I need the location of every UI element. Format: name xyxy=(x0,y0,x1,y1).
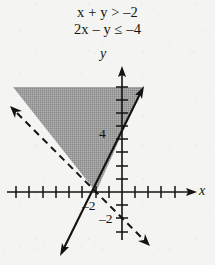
x-axis-label: x xyxy=(199,183,205,199)
x-tick-label-negative-2: –2 xyxy=(82,198,96,214)
y-tick-label-negative-2: –2 xyxy=(99,211,113,227)
y-axis-label: y xyxy=(100,46,106,62)
inequality-line-1: x + y > –2 xyxy=(0,4,215,21)
y-tick-label-4: 4 xyxy=(99,126,106,142)
x-axis xyxy=(7,186,197,198)
inequality-graph-figure: x + y > –2 2x – y ≤ –4 xyxy=(0,0,215,265)
inequality-system-caption: x + y > –2 2x – y ≤ –4 xyxy=(0,4,215,38)
inequality-line-2: 2x – y ≤ –4 xyxy=(0,21,215,38)
